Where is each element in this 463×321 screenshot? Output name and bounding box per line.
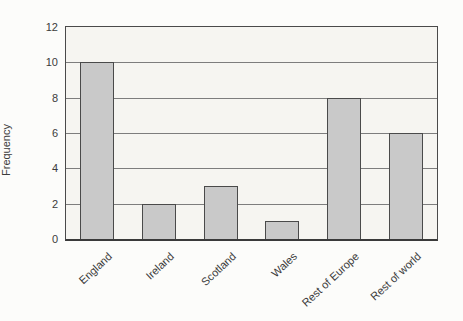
bar-wales bbox=[265, 221, 299, 239]
plot-area bbox=[65, 26, 438, 241]
grid-line bbox=[66, 168, 437, 169]
x-category-label: England bbox=[76, 250, 114, 286]
y-tick-label: 6 bbox=[0, 127, 58, 139]
bar-rest-of-europe bbox=[327, 98, 361, 239]
y-tick-label: 2 bbox=[0, 198, 58, 210]
y-tick-label: 0 bbox=[0, 233, 58, 245]
grid-line bbox=[66, 98, 437, 99]
grid-line bbox=[66, 133, 437, 134]
x-category-label: Ireland bbox=[143, 250, 176, 282]
y-axis-ticks: 024681012 bbox=[0, 0, 58, 321]
bar-scotland bbox=[204, 186, 238, 239]
grid-line bbox=[66, 204, 437, 205]
x-category-label: Rest of world bbox=[368, 250, 423, 303]
grid-line bbox=[66, 62, 437, 63]
x-category-label: Wales bbox=[269, 250, 299, 279]
bar-chart: Frequency 024681012 EnglandIrelandScotla… bbox=[0, 0, 463, 321]
x-category-label: Scotland bbox=[198, 250, 237, 288]
x-category-label: Rest of Europe bbox=[300, 250, 362, 309]
y-tick-label: 4 bbox=[0, 162, 58, 174]
y-tick-label: 12 bbox=[0, 21, 58, 33]
y-tick-label: 8 bbox=[0, 92, 58, 104]
bar-rest-of-world bbox=[389, 133, 423, 239]
bar-ireland bbox=[142, 204, 176, 239]
bar-england bbox=[80, 62, 114, 239]
y-tick-label: 10 bbox=[0, 56, 58, 68]
